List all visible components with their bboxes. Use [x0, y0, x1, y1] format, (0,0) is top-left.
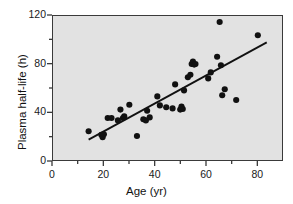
data-point — [147, 114, 153, 120]
data-point — [180, 106, 186, 112]
x-tick-label: 40 — [135, 168, 175, 180]
regression-line — [89, 42, 267, 139]
x-tick-label: 80 — [237, 168, 277, 180]
x-tick-label: 60 — [186, 168, 226, 180]
data-point — [255, 32, 261, 38]
y-tick-label: 0 — [0, 154, 46, 166]
data-point — [101, 131, 107, 137]
data-point — [233, 97, 239, 103]
x-tick-label: 20 — [83, 168, 123, 180]
data-point — [218, 62, 224, 68]
data-point — [172, 81, 178, 87]
data-point — [163, 104, 169, 110]
data-point — [134, 133, 140, 139]
data-point — [86, 128, 92, 134]
data-point — [126, 102, 132, 108]
data-point — [205, 75, 211, 81]
data-point — [121, 113, 127, 119]
data-point — [144, 108, 150, 114]
y-tick-label: 80 — [0, 57, 46, 69]
y-tick-label: 40 — [0, 105, 46, 117]
data-point — [187, 72, 193, 78]
data-point — [214, 54, 220, 60]
scatter-plot-figure: Age (yr) Plasma half-life (h) 0204060800… — [0, 0, 293, 204]
data-point — [208, 69, 214, 75]
data-point — [170, 105, 176, 111]
plot-area — [52, 15, 283, 161]
data-point — [157, 102, 163, 108]
data-point — [108, 115, 114, 121]
data-point — [217, 19, 223, 25]
x-axis-title: Age (yr) — [0, 185, 293, 197]
y-tick-label: 120 — [0, 8, 46, 20]
data-point — [154, 93, 160, 99]
plot-data-layer — [53, 16, 282, 160]
x-tick-label: 0 — [32, 168, 72, 180]
data-point — [219, 92, 225, 98]
data-point — [181, 87, 187, 93]
data-point — [117, 107, 123, 113]
data-point — [222, 86, 228, 92]
data-point — [192, 61, 198, 67]
